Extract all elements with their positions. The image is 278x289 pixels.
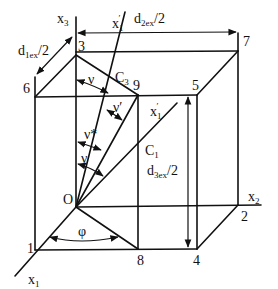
angle-nu-prime-label: ν′ [113,100,122,115]
vertex-4-label: 4 [193,253,200,268]
vertex-3-label: 3 [78,39,85,54]
box-geometry-diagram: x3 x1 x2 x1′ x1′ O 1 2 3 4 5 6 7 8 9 C1 … [0,0,278,289]
angle-phi-label: φ [78,224,86,239]
point-c1-label: C1 [145,143,159,160]
x1-prime-mid-label: x1′ [150,101,162,121]
ray-O-C1 [76,103,177,207]
edge-6-5 [35,95,197,97]
angle-nu-star-label: ν* [84,127,97,142]
x2-label: x2 [248,189,260,206]
point-c3-label: C3 [115,70,129,87]
edge-3-6 [35,55,76,97]
d2-dimension-arrow [78,32,236,33]
vertex-7-label: 7 [243,34,250,49]
edge-7-5 [197,51,238,95]
vertex-5-label: 5 [192,78,199,93]
x3-label: x3 [57,11,69,28]
origin-label: O [63,192,73,207]
angle-nu-star-arc [78,142,101,150]
d1-label: d1ex/2 [18,43,49,60]
angle-nu-bottom-label: ν [81,151,87,166]
edge-4-2 [197,205,238,249]
edge-3-7 [76,51,238,52]
vertex-1-label: 1 [27,241,34,256]
angle-nu-top-label: ν [88,72,94,87]
x1-label: x1 [28,272,40,289]
d3-label: d3ex/2 [147,163,178,180]
vertex-6-label: 6 [23,81,30,96]
x1-axis [15,207,76,276]
vertex-2-label: 2 [241,209,248,224]
line-3-9 [76,55,138,95]
x1-prime-top-label: x1′ [112,13,124,33]
vertex-9-label: 9 [133,78,140,93]
vertex-8-label: 8 [137,253,144,268]
x2-axis [76,205,261,207]
edge-1-4 [35,249,197,250]
d2-label: d2ex/2 [134,11,165,28]
